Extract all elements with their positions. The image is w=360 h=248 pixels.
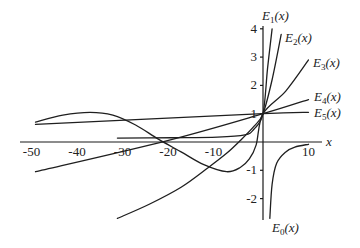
labels: E0(x)E1(x)E2(x)E3(x)E4(x)E5(x)	[261, 8, 341, 237]
y-tick-label: 2	[251, 77, 258, 92]
x-axis-label: x	[325, 134, 332, 149]
curve-label-1: E1(x)	[261, 8, 289, 25]
y-tick-label: -2	[246, 191, 257, 206]
curve-label-0: E0(x)	[271, 220, 299, 237]
x-tick-label: -50	[23, 144, 40, 159]
curve-label-2: E2(x)	[284, 30, 312, 47]
x-tick-label: -20	[159, 144, 176, 159]
chart: -50-40-30-20-10104321-1-2x E0(x)E1(x)E2(…	[0, 0, 360, 248]
y-tick-label: 1	[251, 106, 258, 121]
curves	[36, 29, 309, 219]
curve-label-3: E3(x)	[312, 55, 340, 72]
curve-e5x	[36, 112, 309, 124]
x-tick-label: -40	[68, 144, 85, 159]
y-tick-label: 4	[251, 21, 258, 36]
y-tick-label: -1	[246, 162, 257, 177]
curve-label-5: E5(x)	[313, 105, 341, 122]
curve-e4x	[36, 100, 309, 172]
y-tick-label: 3	[251, 49, 258, 64]
curve-label-4: E4(x)	[313, 89, 341, 106]
curve-e1x	[117, 29, 272, 138]
x-tick-label: 10	[302, 144, 315, 159]
x-tick-label: -10	[205, 144, 222, 159]
